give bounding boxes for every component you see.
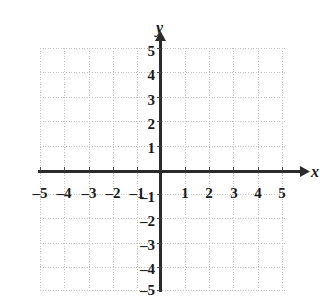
y-tick-label: –2 (140, 214, 155, 229)
x-tick-label: –5 (33, 186, 48, 201)
x-axis-arrow-icon (300, 166, 310, 177)
y-tick-label: 2 (148, 117, 156, 132)
y-tick-label: –3 (140, 238, 155, 253)
x-tick-label: –4 (57, 186, 72, 201)
x-tick-label: –2 (106, 186, 121, 201)
x-tick-label: 3 (230, 186, 238, 201)
y-tick-label: 3 (148, 93, 156, 108)
x-tick-label: –3 (82, 186, 97, 201)
y-tick-label: –1 (140, 190, 155, 205)
y-tick-label: 5 (148, 44, 156, 59)
grid-lines-horizontal (40, 49, 285, 291)
y-tick-label: 4 (148, 68, 156, 83)
x-tick-label: 4 (254, 186, 262, 201)
coordinate-plane-graph: y x –5–4–3–2–112345 54321–1–2–3–4–5 (0, 0, 326, 305)
y-tick-label: –4 (140, 262, 155, 277)
x-tick-label: 5 (278, 186, 286, 201)
x-axis-label: x (311, 164, 319, 180)
y-tick-label: –5 (140, 283, 155, 298)
y-tick-label: 1 (148, 141, 156, 156)
x-tick-label: 1 (181, 186, 189, 201)
graph-canvas (0, 0, 326, 305)
y-axis-label: y (156, 20, 163, 36)
x-tick-label: 2 (205, 186, 213, 201)
